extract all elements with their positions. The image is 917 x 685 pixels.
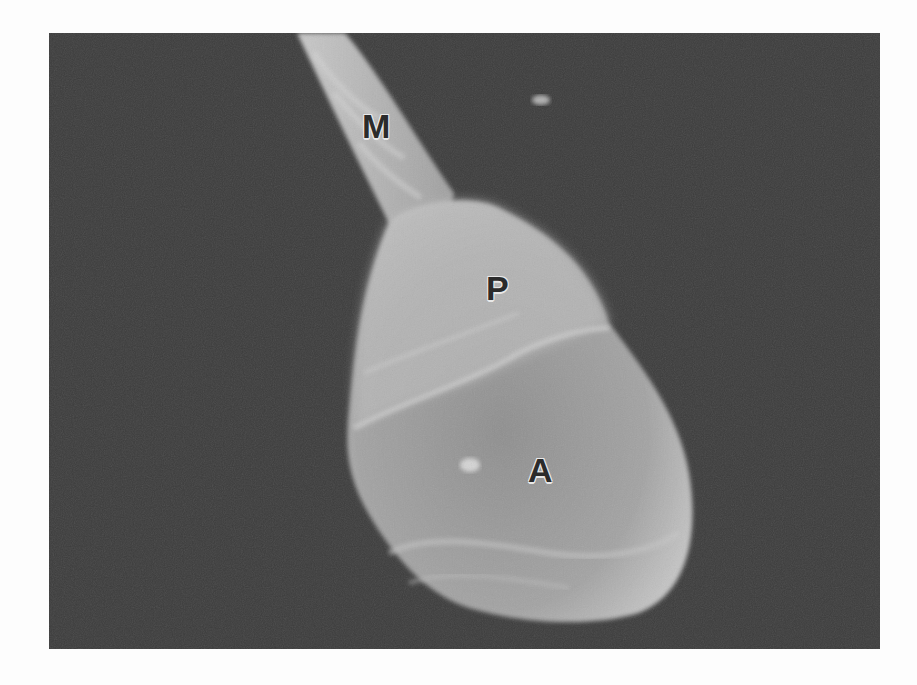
label-acrosome: A bbox=[528, 453, 553, 487]
micrograph-figure: M P A bbox=[49, 33, 880, 649]
label-midpiece: M bbox=[362, 109, 390, 143]
label-postacrosomal: P bbox=[486, 271, 509, 305]
micrograph-image bbox=[49, 33, 880, 649]
